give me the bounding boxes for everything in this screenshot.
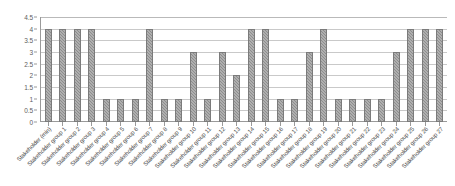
bar-slot — [143, 17, 158, 122]
y-axis-tick-label: 3.5 — [24, 37, 33, 44]
bar-slot — [201, 17, 216, 122]
y-axis-tick-mark — [34, 98, 37, 99]
bar — [407, 29, 414, 122]
y-axis-tick-mark — [34, 110, 37, 111]
bar-slot — [360, 17, 375, 122]
y-axis-tick-mark — [34, 52, 37, 53]
bar-slot — [244, 17, 259, 122]
bar — [335, 99, 342, 122]
bar — [277, 99, 284, 122]
y-axis-tick-mark — [34, 122, 37, 123]
y-axis-tick-mark — [34, 17, 37, 18]
y-axis-tick-label: 1.5 — [24, 84, 33, 91]
bar-slot — [331, 17, 346, 122]
bar-slot — [114, 17, 129, 122]
bar — [103, 99, 110, 122]
bar-slot — [288, 17, 303, 122]
bar — [74, 29, 81, 122]
x-axis-label-slot: Stakeholder group 27 — [433, 126, 448, 186]
bar — [132, 99, 139, 122]
y-axis-tick-label: 2.5 — [24, 60, 33, 67]
y-axis: 00.511.522.533.544.5 — [0, 17, 37, 122]
bar-slot — [99, 17, 114, 122]
bars-container — [41, 17, 447, 122]
y-axis-tick-label: 4 — [29, 25, 33, 32]
bar — [320, 29, 327, 122]
bar-slot — [85, 17, 100, 122]
y-axis-tick-mark — [34, 87, 37, 88]
bar — [204, 99, 211, 122]
y-axis-tick-label: 2 — [29, 72, 33, 79]
bar — [364, 99, 371, 122]
bar — [248, 29, 255, 122]
bar — [378, 99, 385, 122]
bar — [262, 29, 269, 122]
bar-slot — [70, 17, 85, 122]
x-axis-labels: Stakeholder (min)Stakeholder group 1Stak… — [41, 126, 447, 186]
y-axis-tick-mark — [34, 63, 37, 64]
bar-slot — [418, 17, 433, 122]
bar-slot — [215, 17, 230, 122]
bar — [146, 29, 153, 122]
bar — [59, 29, 66, 122]
bar — [306, 52, 313, 122]
bar — [436, 29, 443, 122]
bar — [219, 52, 226, 122]
bar-slot — [317, 17, 332, 122]
bar-slot — [157, 17, 172, 122]
y-axis-tick-label: 4.5 — [24, 14, 33, 21]
y-axis-tick-label: 0 — [29, 119, 33, 126]
bar-slot — [375, 17, 390, 122]
y-axis-tick-label: 3 — [29, 49, 33, 56]
bar — [393, 52, 400, 122]
bar-slot — [56, 17, 71, 122]
bar — [233, 75, 240, 122]
bar-slot — [346, 17, 361, 122]
bar — [161, 99, 168, 122]
bar-slot — [259, 17, 274, 122]
bar — [422, 29, 429, 122]
y-axis-tick-mark — [34, 75, 37, 76]
y-axis-tick-label: 0.5 — [24, 107, 33, 114]
bar-slot — [230, 17, 245, 122]
bar-slot — [273, 17, 288, 122]
bar-slot — [41, 17, 56, 122]
bar — [88, 29, 95, 122]
y-axis-tick-label: 1 — [29, 95, 33, 102]
bar-slot — [389, 17, 404, 122]
bar — [175, 99, 182, 122]
bar — [190, 52, 197, 122]
bar — [45, 29, 52, 122]
bar-chart: 00.511.522.533.544.5 Stakeholder (min)St… — [0, 0, 455, 186]
bar — [349, 99, 356, 122]
y-axis-tick-mark — [34, 28, 37, 29]
bar-slot — [433, 17, 448, 122]
bar — [117, 99, 124, 122]
bar-slot — [186, 17, 201, 122]
y-axis-tick-mark — [34, 40, 37, 41]
bar-slot — [302, 17, 317, 122]
bar-slot — [172, 17, 187, 122]
bar-slot — [404, 17, 419, 122]
bar — [291, 99, 298, 122]
bar-slot — [128, 17, 143, 122]
